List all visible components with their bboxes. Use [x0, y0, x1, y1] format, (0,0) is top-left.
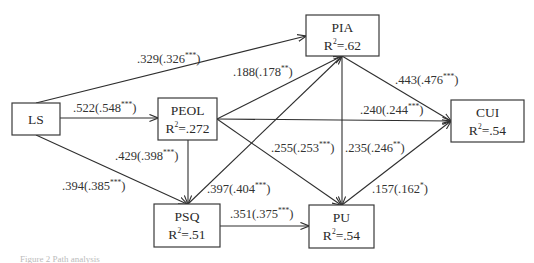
edge-ls-to-psq [36, 135, 187, 204]
edge-label-peol-cui: .240(.244***) [360, 102, 423, 117]
node-r-squared: R2=.272 [165, 120, 209, 136]
edge-label-peol-psq: .429(.398***) [115, 148, 178, 163]
node-ls: LS [12, 103, 60, 135]
node-title: CUI [476, 105, 500, 120]
edge-label-pia-cui: .443(.476***) [395, 72, 458, 87]
node-peol: PEOLR2=.272 [158, 98, 217, 140]
edge-peol-to-cui [217, 119, 451, 121]
edge-label-psq-pu: .351(.375***) [230, 206, 293, 221]
edge-label-ls-pia: .329(.326***) [137, 51, 200, 66]
node-pia: PIAR2=.62 [306, 15, 379, 56]
edge-label-ls-psq: .394(.385***) [62, 178, 125, 193]
node-title: LS [28, 112, 44, 127]
edge-label-peol-pia: .188(.178**) [233, 64, 293, 79]
node-psq: PSQR2=.51 [154, 204, 220, 247]
edge-label-psq-pia: .397(.404***) [207, 181, 270, 196]
edge-label-peol-pu: .255(.253***) [271, 140, 334, 155]
node-pu: PUR2=.54 [309, 205, 374, 248]
edge-label-ls-peol: .522(.548***) [73, 100, 136, 115]
edge-label-pu-cui: .157(.162*) [372, 181, 428, 196]
node-r-squared: R2=.62 [324, 37, 361, 53]
node-r-squared: R2=.51 [168, 226, 205, 242]
node-r-squared: R2=.54 [323, 227, 361, 243]
labels-layer: .329(.326***).522(.548***).394(.385***).… [62, 51, 458, 221]
node-title: PIA [332, 20, 354, 35]
node-title: PSQ [175, 209, 200, 224]
node-r-squared: R2=.54 [469, 122, 507, 138]
edge-label-pia-pu: .235(.246**) [345, 140, 405, 155]
node-title: PU [333, 210, 351, 225]
path-diagram: LSPEOLR2=.272PIAR2=.62CUIR2=.54PSQR2=.51… [0, 0, 534, 263]
node-cui: CUIR2=.54 [451, 100, 524, 142]
figure-caption: Figure 2 Path analysis [20, 254, 100, 263]
node-title: PEOL [171, 103, 205, 118]
